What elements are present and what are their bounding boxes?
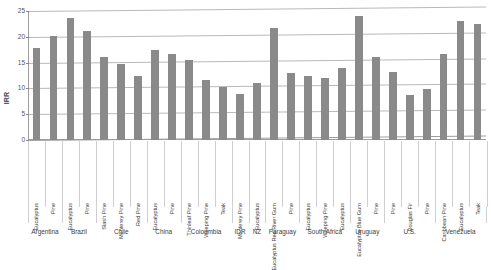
- category-cell: Pine: [282, 141, 300, 207]
- group-label: NZ: [253, 228, 262, 235]
- bar: [236, 94, 244, 140]
- group-label: U.S.: [403, 228, 415, 235]
- category-cell: Teak: [215, 141, 233, 207]
- group-label: Chile: [114, 228, 129, 235]
- bar: [83, 31, 91, 140]
- category-cell: Eucalyptus: [249, 141, 267, 207]
- category-cell: Eucalyptus: [28, 141, 46, 207]
- category-cell: Douglas Fir: [401, 141, 419, 207]
- group-tick: [265, 207, 266, 223]
- bar: [321, 78, 329, 140]
- y-tick-mark: [26, 11, 29, 12]
- bar: [253, 83, 261, 140]
- category-cell: Pine: [367, 141, 385, 207]
- category-cell: Pine: [79, 141, 97, 207]
- bar: [151, 50, 159, 140]
- bar: [474, 24, 482, 140]
- bar: [372, 57, 380, 140]
- group-label: Coloumbia: [191, 228, 222, 235]
- bars-layer: [28, 11, 486, 140]
- group-tick: [28, 207, 29, 223]
- category-cell: Teak: [469, 141, 488, 207]
- group-tick: [249, 207, 250, 223]
- group-label: Venezuela: [446, 228, 476, 235]
- category-cell: Weeping Pine: [198, 141, 216, 207]
- category-cell: Eucalyptus: [299, 141, 317, 207]
- y-tick-mark: [26, 88, 29, 89]
- y-tick-mark: [26, 37, 29, 38]
- category-cell: Eucalyptus: [147, 141, 165, 207]
- bar: [100, 57, 108, 140]
- y-tick-label: 0: [21, 137, 25, 144]
- bar: [219, 87, 227, 140]
- category-cell: Eucalyptus Blue Gum: [350, 141, 368, 207]
- y-tick-mark: [26, 63, 29, 64]
- group-tick: [96, 207, 97, 223]
- y-tick-label: 25: [18, 8, 25, 15]
- y-tick-label: 5: [21, 111, 25, 118]
- category-cell: Eucalyptus: [62, 141, 80, 207]
- bar: [33, 48, 41, 140]
- y-tick-label: 15: [18, 59, 25, 66]
- bar: [440, 54, 448, 140]
- category-axis-labels: EucalyptusPineEucalyptusPineSlash PineMo…: [28, 141, 486, 207]
- category-cell: Slash Pine: [96, 141, 114, 207]
- bar: [287, 73, 295, 140]
- group-label: China: [155, 228, 172, 235]
- bar: [406, 95, 414, 140]
- y-tick-label: 10: [18, 85, 25, 92]
- category-cell: Pine: [384, 141, 402, 207]
- plot-area: 0510152025: [28, 11, 486, 140]
- group-tick: [350, 207, 351, 223]
- bar: [168, 54, 176, 140]
- category-cell: Pine: [418, 141, 436, 207]
- y-tick-label: 20: [18, 34, 25, 41]
- category-cell: Monterey Pine: [232, 141, 250, 207]
- group-label: Argentina: [31, 228, 58, 235]
- group-tick: [384, 207, 385, 223]
- category-cell: Monterey Pine: [113, 141, 131, 207]
- category-cell: Eucalyptus Red River Gum: [265, 141, 283, 207]
- category-cell: Pine: [45, 141, 63, 207]
- group-label: Uruguay: [355, 228, 379, 235]
- bar: [389, 72, 397, 140]
- category-cell: Weeping Pine: [316, 141, 334, 207]
- category-cell: Thinleaf Pine: [181, 141, 199, 207]
- bar: [304, 76, 312, 141]
- bar: [270, 28, 278, 140]
- bar: [67, 18, 75, 140]
- category-cell: Pine: [164, 141, 182, 207]
- group-tick: [232, 207, 233, 223]
- bar: [134, 76, 142, 140]
- group-tick: [486, 207, 487, 223]
- group-tick: [435, 207, 436, 223]
- bar: [338, 68, 346, 140]
- bar: [117, 64, 125, 140]
- bar: [202, 80, 210, 140]
- bar: [355, 16, 363, 140]
- category-cell: Red Pine: [130, 141, 148, 207]
- bar: [50, 36, 58, 140]
- group-label: South Africa: [308, 228, 342, 235]
- bar: [185, 60, 193, 140]
- group-tick: [181, 207, 182, 223]
- category-cell: Eucalyptus: [452, 141, 470, 207]
- category-cell: Caribbean Pine: [435, 141, 453, 207]
- country-group-labels: ArgentinaBrazilChileChinaColoumbiaIDRNZP…: [28, 207, 486, 248]
- bar: [457, 21, 465, 140]
- group-label: Paraguay: [269, 228, 296, 235]
- group-label: IDR: [235, 228, 246, 235]
- group-tick: [299, 207, 300, 223]
- group-tick: [62, 207, 63, 223]
- y-axis-title: IRR: [3, 78, 17, 118]
- y-tick-mark: [26, 114, 29, 115]
- bar: [423, 89, 431, 140]
- group-tick: [147, 207, 148, 223]
- group-label: Brazil: [71, 228, 87, 235]
- category-cell: Eucalyptus: [333, 141, 351, 207]
